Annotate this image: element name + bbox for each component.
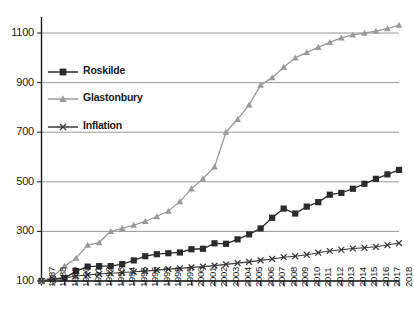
x-axis-tick-label: 2007 (276, 267, 287, 287)
x-axis-tick-label: 2016 (380, 267, 391, 287)
data-point-marker (142, 253, 148, 259)
data-point-marker (396, 22, 403, 28)
data-point-marker (292, 210, 298, 216)
x-axis-tick-label: 2003 (230, 267, 241, 287)
x-axis-tick-label: 1989 (69, 267, 80, 287)
x-axis-tick-label: 2000 (195, 267, 206, 287)
x-axis-tick-label: 2002 (218, 267, 229, 287)
x-axis-tick-label: 2015 (368, 267, 379, 287)
x-axis-tick-label: 2013 (345, 267, 356, 287)
data-point-marker (246, 231, 252, 237)
x-axis-tick-label: 1999 (184, 267, 195, 287)
x-axis-tick-label: 1988 (57, 267, 68, 287)
data-point-marker (315, 199, 321, 205)
data-point-marker (338, 190, 344, 196)
x-axis-tick-label: 2006 (265, 267, 276, 287)
data-point-marker (350, 186, 356, 192)
y-axis-tick-label: 100 (0, 274, 34, 286)
data-point-marker (177, 249, 183, 255)
data-point-marker (246, 102, 253, 108)
y-axis-tick-label: 300 (0, 224, 34, 236)
data-point-marker (304, 204, 310, 210)
x-axis-tick-label: 1990 (80, 267, 91, 287)
y-axis-tick-label: 700 (0, 125, 34, 137)
data-point-marker (211, 164, 218, 170)
data-point-marker (327, 192, 333, 198)
x-axis-tick-label: 1991 (92, 267, 103, 287)
data-point-marker (154, 251, 160, 257)
data-point-marker (269, 215, 275, 221)
legend-marker-triangle-icon (48, 91, 78, 103)
data-point-marker (384, 171, 390, 177)
data-point-marker (131, 257, 137, 263)
x-axis-tick-label: 2011 (322, 268, 333, 287)
x-axis-tick-label: 1987 (46, 267, 57, 287)
data-point-marker (60, 69, 67, 76)
data-point-marker (153, 213, 160, 219)
legend-label: Roskilde (83, 64, 125, 76)
legend-label: Inflation (83, 119, 122, 131)
x-axis-tick-label: 1993 (115, 267, 126, 287)
x-axis-tick-label: 1994 (126, 267, 137, 287)
x-axis-tick-label: 2008 (288, 267, 299, 287)
series-line-roskilde (42, 170, 400, 281)
x-axis-tick-label: 2014 (357, 267, 368, 287)
data-point-marker (188, 246, 194, 252)
data-point-marker (396, 167, 402, 173)
y-axis-tick-label: 1100 (0, 26, 34, 38)
data-point-marker (223, 241, 229, 247)
legend-item-roskilde[interactable]: Roskilde (48, 63, 125, 77)
x-axis-tick-label: 1995 (138, 267, 149, 287)
x-axis-tick-label: 2010 (311, 267, 322, 287)
x-axis-tick-label: 1996 (149, 267, 160, 287)
legend-item-inflation[interactable]: Inflation (48, 118, 122, 132)
x-axis-tick-label: 2004 (242, 267, 253, 287)
data-point-marker (211, 240, 217, 246)
legend-item-glastonbury[interactable]: Glastonbury (48, 90, 143, 104)
x-axis-tick-label: 1998 (172, 267, 183, 287)
x-axis-tick-label: 1992 (103, 267, 114, 287)
data-point-marker (234, 236, 240, 242)
data-point-marker (373, 176, 379, 182)
legend-label: Glastonbury (83, 91, 143, 103)
legend-marker-cross-icon (48, 119, 78, 131)
data-point-marker (165, 250, 171, 256)
legend-marker-square-icon (48, 64, 78, 76)
y-axis-tick-label: 500 (0, 175, 34, 187)
x-axis-tick-label: 2009 (299, 267, 310, 287)
x-axis-tick-label: 1997 (161, 267, 172, 287)
data-point-marker (361, 181, 367, 187)
x-axis-tick-label: 2017 (391, 267, 402, 287)
x-axis-tick-label: 2001 (207, 267, 218, 287)
data-point-marker (200, 246, 206, 252)
y-axis-tick-label: 900 (0, 76, 34, 88)
data-point-marker (258, 225, 264, 231)
x-axis-tick-label: 2018 (403, 267, 414, 287)
data-point-marker (292, 54, 299, 60)
x-axis-tick-label: 2005 (253, 267, 264, 287)
x-axis-tick-label: 2012 (334, 267, 345, 287)
data-point-marker (281, 205, 287, 211)
